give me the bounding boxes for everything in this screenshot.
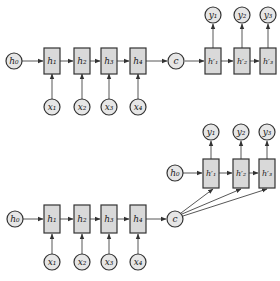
top-x1-node: x₁ (44, 99, 60, 115)
top-h2-label: h₂ (77, 56, 87, 66)
top-h3-label: h₃ (104, 56, 114, 66)
top-y3-node: y₃ (260, 7, 276, 23)
bottom-x4-node: x₄ (130, 254, 146, 270)
top-h1-label: h₁ (47, 56, 56, 66)
bottom-h1-node: h₁ (44, 205, 60, 233)
top-y1-node: y₁ (205, 7, 221, 23)
top-h0-label: h₀ (9, 56, 19, 66)
bottom-h3-label: h₃ (104, 214, 114, 224)
bottom-h2prime-node: h′₂ (233, 159, 249, 188)
top-h0-node: h₀ (6, 53, 22, 69)
bottom-h2-label: h₂ (77, 214, 87, 224)
top-h2prime-label: h′₂ (237, 57, 247, 66)
bottom-h0-node: h₀ (7, 211, 23, 227)
bottom-h3-node: h₃ (101, 205, 117, 233)
bottom-h3prime-label: h′₃ (262, 169, 272, 178)
top-h4-node: h₄ (130, 48, 146, 74)
bottom-h4-node: h₄ (130, 205, 146, 233)
top-x4-node: x₄ (130, 99, 146, 115)
bottom-h1prime-node: h′₁ (203, 159, 219, 188)
bottom-x1-label: x₁ (48, 257, 57, 267)
top-y2-node: y₂ (234, 7, 250, 23)
bottom-y3-node: y₃ (259, 124, 275, 140)
bottom-h4-label: h₄ (133, 214, 143, 224)
bottom-x3-label: x₃ (105, 257, 114, 267)
top-y1-label: y₁ (208, 10, 218, 20)
top-h1prime-node: h′₁ (205, 48, 221, 74)
bottom-y3-label: y₃ (262, 127, 272, 137)
bottom-h1prime-label: h′₁ (206, 169, 216, 178)
bottom-context-node: c (167, 211, 183, 227)
top-h1prime-label: h′₁ (208, 57, 218, 66)
bottom-y1-node: y₁ (203, 124, 219, 140)
bottom-h0dec-node: h₀ (167, 165, 183, 181)
top-h1-node: h₁ (44, 48, 60, 74)
bottom-h2prime-label: h′₂ (236, 169, 246, 178)
top-h2-node: h₂ (74, 48, 90, 74)
bottom-x2-label: x₂ (78, 257, 87, 267)
bottom-x4-label: x₄ (134, 257, 143, 267)
bottom-y2-label: y₂ (236, 127, 246, 137)
bottom-context-label: c (172, 214, 177, 224)
diagram-canvas: h₀ h₁ h₂ h₃ h₄ x₁ x₂ x₃ (0, 0, 280, 281)
top-context-node: c (168, 53, 184, 69)
edge-c-h2prime (182, 189, 241, 214)
top-x4-label: x₄ (134, 102, 143, 112)
top-x3-label: x₃ (105, 102, 114, 112)
bottom-x3-node: x₃ (101, 254, 117, 270)
top-x2-node: x₂ (74, 99, 90, 115)
bottom-h3prime-node: h′₃ (259, 159, 275, 188)
bottom-x1-node: x₁ (44, 254, 60, 270)
top-y3-label: y₃ (263, 10, 273, 20)
bottom-edges (23, 141, 267, 254)
bottom-h1-label: h₁ (47, 214, 56, 224)
bottom-h2-node: h₂ (74, 205, 90, 233)
diagram-bottom: h₀ h₁ h₂ h₃ h₄ x₁ x₂ x₃ (7, 124, 275, 270)
top-h4-label: h₄ (133, 56, 143, 66)
bottom-x2-node: x₂ (74, 254, 90, 270)
bottom-h0-label: h₀ (10, 214, 20, 224)
top-h2prime-node: h′₂ (234, 48, 250, 74)
top-context-label: c (173, 56, 178, 66)
edge-c-h1prime (181, 189, 213, 213)
top-y2-label: y₂ (237, 10, 247, 20)
top-x1-label: x₁ (48, 102, 57, 112)
bottom-y2-node: y₂ (233, 124, 249, 140)
bottom-h0dec-label: h₀ (170, 168, 180, 178)
top-h3prime-label: h′₃ (263, 57, 273, 66)
top-x3-node: x₃ (101, 99, 117, 115)
top-h3-node: h₃ (101, 48, 117, 74)
diagram-top: h₀ h₁ h₂ h₃ h₄ x₁ x₂ x₃ (6, 7, 276, 115)
bottom-y1-label: y₁ (206, 127, 216, 137)
top-h3prime-node: h′₃ (260, 48, 276, 74)
top-x2-label: x₂ (78, 102, 87, 112)
